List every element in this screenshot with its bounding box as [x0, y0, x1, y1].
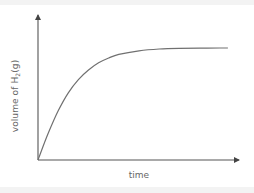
chart-frame: volume of H2(g) time	[0, 0, 254, 193]
y-axis-label: volume of H2(g)	[10, 60, 21, 133]
x-axis-label: time	[129, 170, 149, 180]
data-curve	[38, 48, 228, 160]
bottom-band	[0, 187, 254, 193]
plot-area	[0, 0, 254, 193]
